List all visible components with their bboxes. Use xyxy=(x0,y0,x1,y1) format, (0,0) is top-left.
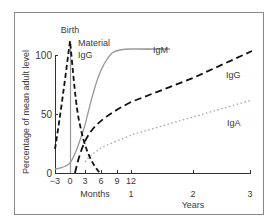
y-tick-50: 50 xyxy=(41,109,53,120)
label-igg: IgG xyxy=(226,70,241,80)
label-igm: IgM xyxy=(153,45,168,55)
annotation-birth: Birth xyxy=(61,25,80,35)
y-tick-100: 100 xyxy=(35,50,52,61)
y-axis-label: Percentage of mean adult level xyxy=(21,50,31,174)
x-tick-m3: −3 xyxy=(50,176,60,186)
x-tick-year-2: 2 xyxy=(190,189,195,199)
x-tick-6: 6 xyxy=(98,176,103,186)
x-label-months: Months xyxy=(80,189,110,199)
x-tick-year-3: 3 xyxy=(247,189,252,199)
x-tick-year-1: 1 xyxy=(128,189,133,199)
x-tick-12: 12 xyxy=(126,176,136,186)
x-tick-0: 0 xyxy=(67,176,72,186)
annotation-maternal-igg: IgG xyxy=(78,50,93,60)
x-tick-3: 3 xyxy=(82,176,87,186)
x-label-years: Years xyxy=(182,200,205,210)
annotation-maternal: Material xyxy=(78,38,110,48)
label-iga: IgA xyxy=(227,118,241,128)
x-tick-9: 9 xyxy=(114,176,119,186)
immunoglobulin-chart: 100 50 0 Percentage of mean adult level … xyxy=(0,0,275,224)
